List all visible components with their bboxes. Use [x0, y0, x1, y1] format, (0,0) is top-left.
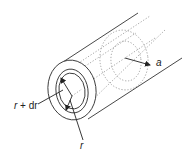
label-r-plus-dr: r + dr [14, 101, 38, 111]
label-r-plus-dr-rest: + dr [17, 100, 37, 111]
cylinder-bottom-edge [88, 58, 182, 119]
cylinder-top-edge [63, 13, 138, 62]
label-a: a [156, 58, 162, 68]
far-inner-dotted-ellipse [108, 39, 143, 83]
arrow-a [125, 58, 150, 65]
cylinder-diagram [0, 0, 194, 156]
cylinder-outline [44, 13, 182, 123]
label-r: r [80, 141, 83, 151]
